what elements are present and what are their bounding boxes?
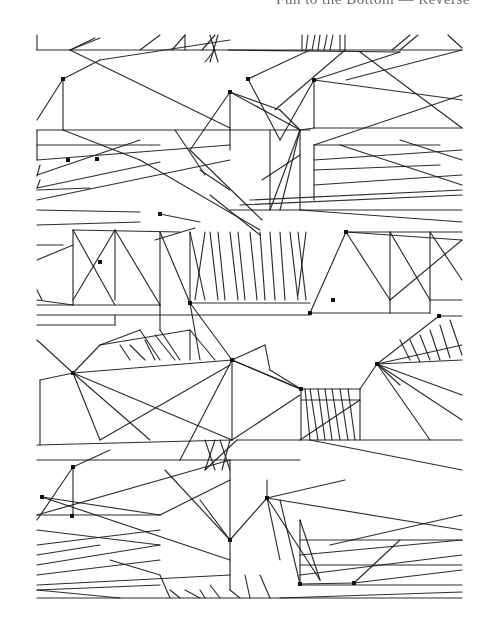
line-segment — [120, 345, 130, 360]
line-segment — [270, 370, 301, 389]
line-segment — [318, 389, 325, 440]
node-dot — [95, 157, 99, 161]
line-segment — [230, 590, 240, 598]
line-segment — [160, 480, 230, 515]
line-segment — [354, 570, 462, 583]
line-segment — [195, 232, 205, 300]
line-segment — [73, 360, 232, 373]
line-segment — [390, 240, 462, 300]
line-segment — [190, 232, 205, 300]
line-segment — [160, 232, 190, 303]
node-dot — [66, 158, 70, 162]
line-segment — [37, 300, 73, 305]
line-segment — [160, 214, 200, 222]
line-segments — [37, 35, 462, 598]
line-segment — [300, 520, 320, 580]
line-segment — [314, 80, 462, 100]
line-segment — [200, 170, 230, 190]
line-segment — [260, 575, 270, 598]
node-dot — [312, 78, 316, 82]
line-segment — [180, 360, 232, 460]
line-segment — [310, 440, 462, 470]
node-dot — [344, 230, 348, 234]
line-segment — [346, 232, 390, 300]
node-dot — [308, 311, 312, 315]
line-segment — [238, 232, 245, 300]
line-segment — [260, 232, 265, 300]
line-segment — [410, 340, 420, 362]
line-segment — [190, 330, 215, 360]
line-segment — [42, 497, 160, 515]
line-segment — [110, 560, 160, 575]
line-segment — [300, 540, 462, 555]
line-segment — [218, 232, 225, 300]
line-segment — [232, 395, 300, 440]
line-segment — [37, 290, 42, 300]
line-segment — [314, 95, 462, 145]
line-segment — [73, 230, 180, 232]
node-dot — [265, 496, 269, 500]
line-segment — [37, 162, 160, 188]
line-segment — [63, 60, 100, 79]
node-dot — [299, 387, 303, 391]
line-segment — [390, 232, 430, 300]
line-segment — [140, 330, 160, 360]
line-segment — [305, 389, 310, 440]
artwork-canvas — [0, 0, 485, 633]
line-segment — [130, 345, 145, 360]
line-segment — [165, 470, 230, 540]
line-segment — [450, 320, 462, 355]
line-segment — [37, 467, 73, 520]
line-segment — [250, 190, 462, 200]
line-segment — [262, 155, 300, 180]
line-segment — [190, 92, 230, 150]
line-segment — [115, 230, 160, 305]
line-segment — [280, 232, 285, 300]
line-segment — [37, 79, 63, 120]
line-segment — [440, 325, 450, 358]
node-dot — [188, 301, 192, 305]
line-segment — [265, 345, 270, 370]
line-segment — [37, 245, 73, 260]
line-segment — [37, 180, 40, 188]
line-segment — [306, 35, 308, 50]
node-dot — [352, 581, 356, 585]
line-segment — [346, 232, 462, 240]
line-drawing-artwork — [0, 0, 485, 633]
line-segment — [37, 188, 90, 190]
line-segment — [70, 50, 230, 128]
line-segment — [37, 160, 230, 200]
line-segment — [73, 373, 150, 440]
line-segment — [275, 50, 345, 110]
line-segment — [73, 345, 100, 373]
line-segment — [310, 232, 346, 313]
line-segment — [267, 480, 345, 498]
line-segment — [140, 35, 160, 50]
line-segment — [324, 35, 327, 50]
node-dot — [61, 77, 65, 81]
node-dot — [70, 514, 74, 518]
node-dot — [71, 371, 75, 375]
line-segment — [200, 590, 205, 598]
line-segment — [312, 35, 315, 50]
line-segment — [250, 232, 257, 300]
line-segment — [200, 500, 230, 540]
line-segment — [267, 498, 320, 580]
line-segment — [314, 150, 462, 160]
line-segment — [325, 389, 332, 440]
node-dot — [437, 314, 441, 318]
line-segment — [37, 210, 140, 212]
node-dot — [158, 212, 162, 216]
node-dot — [40, 495, 44, 499]
line-segment — [377, 364, 400, 385]
line-segment — [230, 232, 238, 300]
line-segment — [314, 175, 462, 185]
node-dot — [298, 582, 302, 586]
line-segment — [280, 592, 462, 598]
line-segment — [420, 335, 430, 360]
line-segment — [37, 460, 230, 515]
line-segment — [37, 590, 120, 598]
line-segment — [377, 364, 430, 440]
node-dot — [331, 298, 335, 302]
line-segment — [392, 35, 410, 50]
